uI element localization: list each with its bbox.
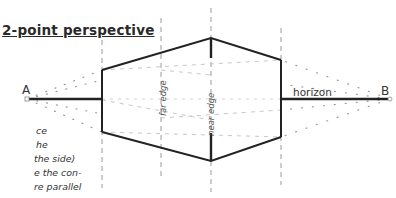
vanishing-point-a-marker <box>25 97 29 101</box>
near-edge-label: near edge <box>206 93 216 136</box>
caption-line: the side) <box>34 152 90 166</box>
bottom-edges <box>102 132 281 161</box>
top-edges <box>102 38 281 70</box>
far-edge-label: far edge <box>158 80 168 116</box>
perspective-diagram: 2-point perspective ce he the side) e th… <box>0 0 396 198</box>
caption-line: ce <box>36 124 90 138</box>
caption-line: e the con- <box>34 166 90 180</box>
caption-line: re parallel <box>34 180 90 194</box>
convergence-lines-a <box>27 70 102 132</box>
diagram-title: 2-point perspective <box>2 22 155 38</box>
side-caption: ce he the side) e the con- re parallel <box>0 124 90 194</box>
horizon-label: horizon <box>293 86 332 98</box>
vanishing-point-b-label: B <box>381 84 389 98</box>
vanishing-point-a-label: A <box>22 83 30 97</box>
caption-line: he <box>36 138 90 152</box>
